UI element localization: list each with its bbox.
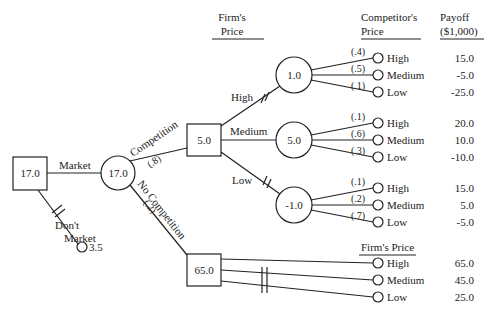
terminal-node: [373, 135, 383, 145]
terminal-node: [373, 217, 383, 227]
terminal-node: [373, 258, 383, 268]
outcome-label: Low: [387, 151, 407, 163]
label-no-competition: No Competition: [135, 178, 189, 242]
block-mark: [265, 92, 269, 101]
payoff-value: 65.0: [455, 257, 475, 269]
outcome-label: Medium: [387, 69, 425, 81]
header-payoff-line1: Payoff: [440, 11, 469, 23]
payoff-value: 20.0: [455, 117, 475, 129]
payoff-value: 25.0: [455, 291, 475, 303]
outcome-label: Low: [387, 291, 407, 303]
outcome-label: Medium: [387, 274, 425, 286]
prob: (.3): [351, 145, 365, 157]
header-firms-price-line1: Firm's: [218, 11, 246, 23]
no-competition-node-value: 65.0: [194, 264, 214, 276]
prob: (.7): [351, 210, 365, 222]
label-firm-high: High: [231, 91, 254, 103]
payoff-value: 15.0: [455, 52, 475, 64]
branch-firm-low: [221, 152, 280, 194]
payoff-value: -25.0: [451, 86, 474, 98]
prob: (.5): [351, 63, 365, 75]
payoff-value: -5.0: [457, 69, 475, 81]
terminal-node: [373, 87, 383, 97]
prob: (.1): [351, 176, 365, 188]
competition-node-value: 5.0: [197, 134, 211, 146]
payoff-value: -10.0: [451, 151, 474, 163]
branch-nc-medium: [221, 270, 373, 280]
outcome-label: Medium: [387, 134, 425, 146]
payoff-value: -5.0: [457, 216, 475, 228]
terminal-node: [373, 53, 383, 63]
terminal-node: [373, 70, 383, 80]
node-value: 1.0: [287, 69, 301, 81]
label-competition-prob: (.8): [145, 153, 163, 171]
header-firms-price-line2: Price: [221, 25, 244, 37]
outcome-label: Low: [387, 86, 407, 98]
label-dont-market-line1: Don't: [55, 219, 79, 231]
payoff-value: 15.0: [455, 182, 475, 194]
header-firms-price-bottom: Firm's Price: [361, 241, 414, 253]
terminal-node: [373, 152, 383, 162]
header-payoff-line2: ($1,000): [440, 25, 478, 38]
node-value: -1.0: [285, 199, 303, 211]
label-competition: Competition: [127, 118, 180, 159]
prob: (.4): [351, 46, 365, 58]
header-competitors-price-line1: Competitor's: [361, 11, 417, 23]
terminal-node: [373, 292, 383, 302]
terminal-node: [373, 183, 383, 193]
label-firm-low: Low: [232, 174, 252, 186]
decision-tree: Firm's Price Competitor's Price Payoff (…: [0, 0, 492, 322]
branch-nc-low: [221, 281, 373, 297]
root-value: 17.0: [20, 167, 40, 179]
prob: (.2): [351, 193, 365, 205]
terminal-node: [373, 118, 383, 128]
payoff-value: 10.0: [455, 134, 475, 146]
payoff-value: 45.0: [455, 274, 475, 286]
outcome-label: High: [387, 257, 410, 269]
header-competitors-price-line2: Price: [361, 25, 384, 37]
block-mark: [52, 205, 62, 213]
label-firm-medium: Medium: [230, 125, 268, 137]
node-value: 5.0: [287, 134, 301, 146]
outcome-label: High: [387, 182, 410, 194]
payoff-dont-market: 3.5: [89, 241, 103, 253]
market-node-value: 17.0: [108, 167, 128, 179]
label-market: Market: [59, 159, 91, 171]
payoff-value: 5.0: [460, 199, 474, 211]
prob: (.1): [351, 111, 365, 123]
terminal-node: [373, 275, 383, 285]
outcome-label: High: [387, 52, 410, 64]
outcome-label: Medium: [387, 199, 425, 211]
terminal-node: [373, 200, 383, 210]
outcome-label: High: [387, 117, 410, 129]
terminal-node: [77, 242, 87, 252]
prob: (.1): [351, 80, 365, 92]
block-mark: [55, 209, 65, 217]
terminal-nodes: [373, 53, 383, 227]
branch-nc-high: [221, 259, 373, 263]
outcome-label: Low: [387, 216, 407, 228]
prob: (.6): [351, 128, 365, 140]
